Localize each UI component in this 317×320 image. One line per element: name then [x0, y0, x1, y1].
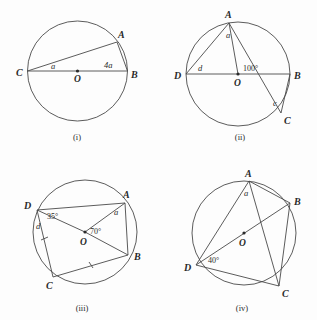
figure-caption-iv: (iv)	[222, 303, 262, 313]
angle-label-a-ii: a	[226, 30, 230, 40]
segment-dc-iv	[196, 265, 279, 286]
center-label-ii: O	[234, 78, 241, 88]
vertex-label-d-iii: D	[23, 200, 31, 211]
vertex-label-a-ii: A	[224, 9, 232, 20]
figure-caption-ii: (ii)	[220, 132, 260, 142]
figure-ii: A B C D O a d c 100° (ii)	[160, 0, 317, 140]
figure-caption-i: (i)	[57, 132, 97, 142]
vertex-label-c-i: C	[16, 67, 23, 78]
segment-ac-iv	[249, 181, 279, 286]
segment-bc-iv	[279, 203, 290, 286]
center-dot-ii	[236, 72, 239, 75]
center-label-i: O	[74, 74, 81, 84]
segment-ab-iv	[249, 181, 290, 203]
center-dot-iii	[83, 230, 86, 233]
vertex-label-a-iii: A	[122, 189, 130, 200]
segment-ab-i	[117, 42, 128, 71]
vertex-label-c-iv: C	[282, 288, 289, 299]
segment-do-iii	[37, 210, 85, 232]
angle-label-a-i: a	[51, 61, 55, 71]
vertex-label-b-i: B	[130, 69, 138, 80]
vertex-label-a-i: A	[117, 29, 125, 40]
segment-ad-iv	[196, 181, 249, 265]
segment-ab-iii	[125, 203, 128, 255]
worksheet-page: A B C O a 4a (i) A B C D O	[0, 0, 317, 320]
center-label-iii: O	[80, 237, 87, 247]
vertex-label-d-iv: D	[183, 262, 191, 273]
angle-label-35-iii: 35°	[47, 212, 58, 221]
figure-i: A B C O a 4a (i)	[0, 0, 160, 140]
vertex-label-d-ii: D	[173, 70, 181, 81]
vertex-label-c-iii: C	[46, 280, 53, 291]
figure-caption-iii: (iii)	[62, 303, 102, 313]
angle-label-a-iv: a	[244, 188, 248, 198]
center-dot-iv	[242, 231, 245, 234]
vertex-label-b-iii: B	[133, 251, 141, 262]
vertex-label-c-ii: C	[284, 115, 291, 126]
vertex-label-a-iv: A	[244, 168, 252, 179]
segment-da-iii	[37, 203, 125, 210]
angle-label-a-iii: a	[114, 207, 118, 217]
angle-label-100-ii: 100°	[243, 64, 258, 73]
center-label-iv: O	[239, 238, 246, 248]
angle-label-70-iii: 70°	[90, 227, 101, 236]
figure-iv: A B C D O a 40° (iv)	[160, 165, 317, 315]
angle-label-c-ii: c	[273, 98, 277, 108]
figure-iii: A B C D O 35° d a 70° (iii)	[0, 165, 160, 315]
angle-label-40-iv: 40°	[208, 256, 219, 265]
vertex-label-b-iv: B	[293, 196, 301, 207]
segment-cb-ii	[281, 74, 290, 113]
angle-label-4a-i: 4a	[104, 60, 113, 70]
vertex-label-b-ii: B	[293, 70, 301, 81]
angle-label-d-ii: d	[198, 63, 203, 73]
center-dot-i	[76, 69, 79, 72]
